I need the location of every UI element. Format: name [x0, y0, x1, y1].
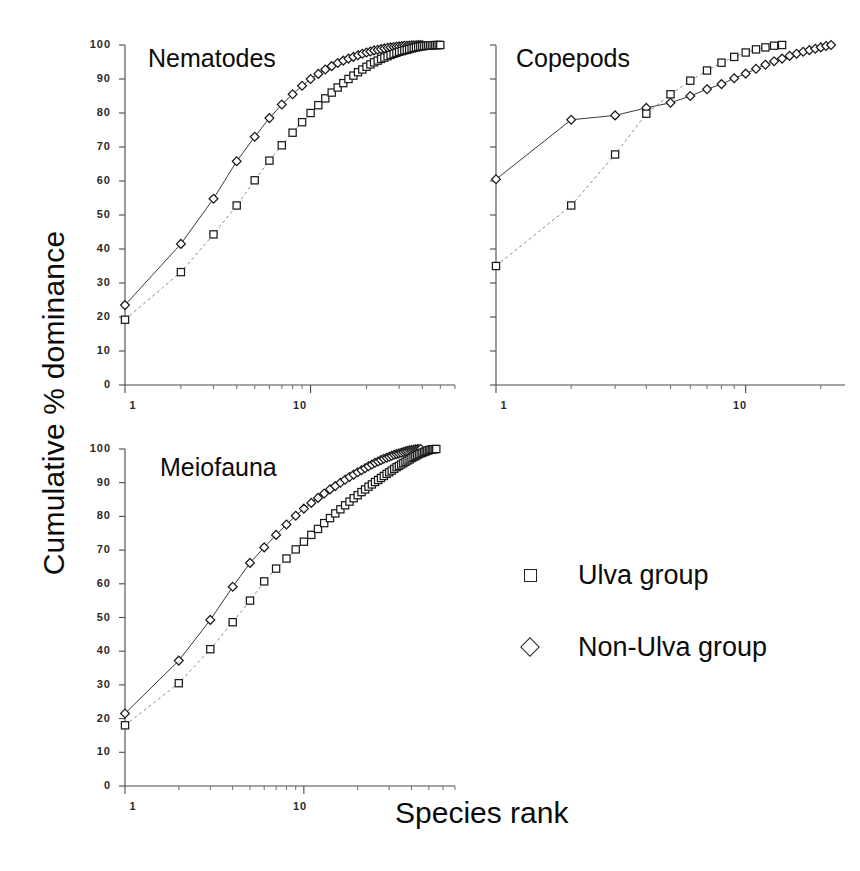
data-point	[233, 202, 240, 209]
data-point	[703, 67, 710, 74]
data-point	[121, 316, 128, 323]
x-tick-label-nematodes-1: 1	[116, 399, 150, 411]
y-tick-label-meiofauna-70: 70	[81, 543, 111, 555]
y-tick-label-nematodes-30: 30	[81, 276, 111, 288]
y-tick-label-meiofauna-60: 60	[81, 577, 111, 589]
data-point	[717, 80, 726, 89]
data-point	[307, 109, 314, 116]
x-tick-label-copepods-1: 1	[487, 399, 521, 411]
data-point	[730, 74, 739, 83]
data-point	[742, 49, 749, 56]
data-point	[667, 91, 674, 98]
y-tick-label-meiofauna-30: 30	[81, 678, 111, 690]
square-marker-icon	[520, 565, 542, 587]
data-point	[228, 582, 237, 591]
panel-title-meiofauna: Meiofauna	[160, 453, 277, 482]
data-point	[666, 98, 675, 107]
data-point	[273, 565, 280, 572]
x-tick-label-meiofauna-1: 1	[116, 800, 150, 812]
data-point	[731, 53, 738, 60]
data-point	[251, 177, 258, 184]
data-point	[292, 546, 299, 553]
y-tick-label-nematodes-100: 100	[81, 38, 111, 50]
y-tick-label-nematodes-90: 90	[81, 72, 111, 84]
data-point	[752, 64, 761, 73]
y-tick-label-nematodes-40: 40	[81, 242, 111, 254]
data-point	[175, 680, 182, 687]
legend-label-ulva: Ulva group	[578, 560, 709, 591]
panel-copepods	[490, 41, 845, 393]
plot-canvas	[0, 0, 860, 871]
series-line-nematodes-diamond	[125, 45, 422, 305]
data-point	[250, 132, 259, 141]
data-point	[209, 194, 218, 203]
data-point	[686, 92, 695, 101]
data-point	[229, 619, 236, 626]
y-tick-label-nematodes-50: 50	[81, 208, 111, 220]
data-point	[437, 41, 444, 48]
x-tick-label-meiofauna-10: 10	[283, 800, 317, 812]
data-point	[266, 157, 273, 164]
series-line-meiofauna-diamond	[125, 449, 421, 714]
y-tick-label-meiofauna-50: 50	[81, 611, 111, 623]
data-point	[687, 77, 694, 84]
data-point	[643, 110, 650, 117]
data-point	[278, 142, 285, 149]
series-line-meiofauna-square	[125, 449, 436, 725]
y-tick-label-nematodes-10: 10	[81, 344, 111, 356]
y-tick-label-nematodes-70: 70	[81, 140, 111, 152]
data-point	[299, 119, 306, 126]
y-tick-label-nematodes-60: 60	[81, 174, 111, 186]
data-point	[177, 269, 184, 276]
panel-meiofauna	[119, 445, 455, 794]
legend-item-non-ulva: Non-Ulva group	[520, 632, 767, 663]
data-point	[779, 41, 786, 48]
y-tick-label-meiofauna-0: 0	[81, 779, 111, 791]
data-point	[307, 499, 316, 508]
data-point	[433, 445, 440, 452]
data-point	[567, 115, 576, 124]
panel-title-nematodes: Nematodes	[148, 44, 276, 73]
y-tick-label-meiofauna-80: 80	[81, 509, 111, 521]
data-point	[315, 102, 322, 109]
data-point	[206, 616, 215, 625]
x-axis-title: Species rank	[395, 796, 568, 830]
series-line-nematodes-square	[125, 45, 440, 320]
data-point	[741, 69, 750, 78]
data-point	[300, 538, 307, 545]
y-tick-label-meiofauna-90: 90	[81, 476, 111, 488]
data-point	[246, 597, 253, 604]
y-tick-label-meiofauna-40: 40	[81, 644, 111, 656]
data-point	[568, 202, 575, 209]
y-tick-label-meiofauna-20: 20	[81, 712, 111, 724]
data-point	[752, 46, 759, 53]
y-axis-title: Cumulative % dominance	[37, 143, 71, 663]
y-tick-label-meiofauna-100: 100	[81, 442, 111, 454]
figure-root: Cumulative % dominance Species rank Nema…	[0, 0, 860, 871]
y-tick-label-nematodes-0: 0	[81, 378, 111, 390]
data-point	[718, 59, 725, 66]
data-point	[761, 60, 770, 69]
data-point	[261, 578, 268, 585]
data-point	[771, 42, 778, 49]
data-point	[283, 555, 290, 562]
data-point	[207, 646, 214, 653]
data-point	[232, 157, 241, 166]
panel-title-copepods: Copepods	[516, 44, 630, 73]
data-point	[770, 57, 779, 66]
legend-item-ulva: Ulva group	[520, 560, 709, 591]
data-point	[492, 262, 499, 269]
x-tick-label-nematodes-10: 10	[283, 399, 317, 411]
y-tick-label-meiofauna-10: 10	[81, 745, 111, 757]
y-tick-label-nematodes-80: 80	[81, 106, 111, 118]
data-point	[762, 44, 769, 51]
data-point	[492, 175, 501, 184]
data-point	[612, 151, 619, 158]
data-point	[121, 722, 128, 729]
y-tick-label-nematodes-20: 20	[81, 310, 111, 322]
legend-label-non-ulva: Non-Ulva group	[578, 632, 767, 663]
diamond-marker-icon	[520, 637, 542, 659]
data-point	[289, 129, 296, 136]
panel-nematodes	[119, 41, 455, 393]
data-point	[611, 111, 620, 120]
